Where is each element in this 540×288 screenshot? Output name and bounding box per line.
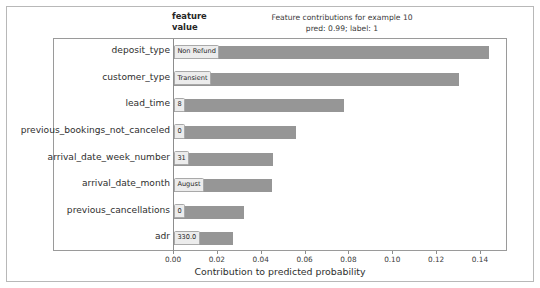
feature-value-box: Non Refund xyxy=(174,45,219,59)
feature-label-holder: customer_type xyxy=(0,65,170,92)
figure-canvas: feature value Feature contributions for … xyxy=(0,0,540,288)
x-tick-mark xyxy=(217,251,218,254)
feature-value-box: August xyxy=(174,178,204,192)
x-tick-label: 0.02 xyxy=(209,255,225,264)
x-tick-label: 0.00 xyxy=(165,255,181,264)
x-tick-mark xyxy=(305,251,306,254)
feature-name-label: deposit_type xyxy=(112,43,170,58)
x-tick-label: 0.06 xyxy=(296,255,312,264)
x-tick-mark xyxy=(436,251,437,254)
x-tick-label: 0.04 xyxy=(253,255,269,264)
feature-label-holder: previous_bookings_not_canceled xyxy=(0,118,170,145)
x-tick-label: 0.08 xyxy=(340,255,356,264)
feature-name-label: previous_cancellations xyxy=(67,203,170,218)
x-tick-mark xyxy=(392,251,393,254)
feature-name-label: adr xyxy=(155,229,170,244)
x-tick-mark xyxy=(348,251,349,254)
chart-title-line-1: Feature contributions for example 10 xyxy=(252,13,432,24)
feature-label-holder: lead_time xyxy=(0,91,170,118)
feature-name-label: customer_type xyxy=(102,70,170,85)
x-tick-mark xyxy=(261,251,262,254)
feature-value-box: 8 xyxy=(174,98,185,112)
feature-label-holder: arrival_date_week_number xyxy=(0,145,170,172)
feature-value-box: 31 xyxy=(174,151,189,165)
contribution-bar xyxy=(174,46,489,59)
feature-value-box: Transient xyxy=(174,71,211,85)
feature-name-label: arrival_date_week_number xyxy=(48,150,170,165)
x-axis-ticks: 0.000.020.040.060.080.100.120.14 xyxy=(53,251,507,265)
feature-value-box: 0 xyxy=(174,204,185,218)
contribution-bar xyxy=(174,99,344,112)
feature-name-label: arrival_date_month xyxy=(82,176,170,191)
feature-label-holder: previous_cancellations xyxy=(0,198,170,225)
feature-value-box: 0 xyxy=(174,124,185,138)
contribution-bar xyxy=(174,73,459,86)
x-tick-label: 0.10 xyxy=(384,255,400,264)
x-tick-label: 0.12 xyxy=(428,255,444,264)
x-tick-label: 0.14 xyxy=(472,255,488,264)
x-tick-mark xyxy=(480,251,481,254)
feature-name-label: previous_bookings_not_canceled xyxy=(21,123,170,138)
chart-title: Feature contributions for example 10 pre… xyxy=(252,13,432,34)
contribution-bar xyxy=(174,126,296,139)
feature-value-column-header: feature value xyxy=(172,11,207,33)
feature-value-box: 330.0 xyxy=(174,231,200,245)
feature-label-holder: adr xyxy=(0,224,170,251)
x-tick-mark xyxy=(173,251,174,254)
feature-label-holder: arrival_date_month xyxy=(0,171,170,198)
feature-label-holder: deposit_type xyxy=(0,38,170,65)
feature-name-label: lead_time xyxy=(125,96,170,111)
chart-title-line-2: pred: 0.99; label: 1 xyxy=(252,24,432,35)
x-axis-label: Contribution to predicted probability xyxy=(53,266,507,278)
